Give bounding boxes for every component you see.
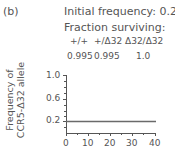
- xtick-40: 40: [149, 139, 160, 148]
- xtick-20: 20: [104, 139, 115, 148]
- xtick-30: 30: [126, 139, 137, 148]
- xtick-0: 0: [63, 139, 69, 148]
- xtick-10: 10: [82, 139, 93, 148]
- plot-area: [0, 0, 175, 151]
